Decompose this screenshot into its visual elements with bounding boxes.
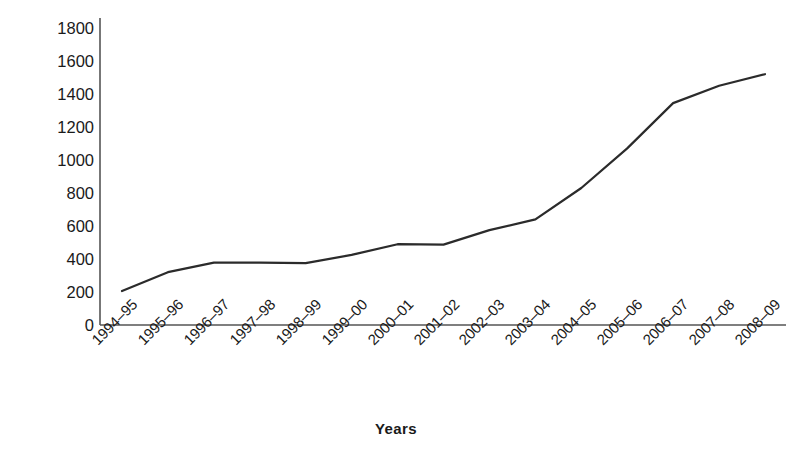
x-tick-label: 2007–08 (685, 296, 737, 348)
x-tick-label: 1998–99 (272, 296, 324, 348)
x-tick-label: 2000–01 (364, 296, 416, 348)
x-tick-label: 1999–00 (318, 296, 370, 348)
x-tick-label: 1997–98 (226, 296, 278, 348)
x-tick-label: 1996–97 (180, 296, 232, 348)
x-tick-label: 2003–04 (501, 296, 553, 348)
x-tick-label: 1995–96 (134, 296, 186, 348)
x-tick-label: 1994–95 (88, 296, 140, 348)
x-tick-label: 2005–06 (593, 296, 645, 348)
x-tick-label: 2002–03 (455, 296, 507, 348)
x-tick-label: 2008–09 (731, 296, 783, 348)
x-axis-title: Years (0, 420, 792, 437)
x-tick-label: 2004–05 (547, 296, 599, 348)
x-tick-label: 2001–02 (410, 296, 462, 348)
x-axis-tick-labels: 1994–951995–961996–971997–981998–991999–… (0, 0, 792, 456)
x-tick-label: 2006–07 (639, 296, 691, 348)
line-chart: Rs. million 0200400600800100012001400160… (0, 0, 792, 456)
